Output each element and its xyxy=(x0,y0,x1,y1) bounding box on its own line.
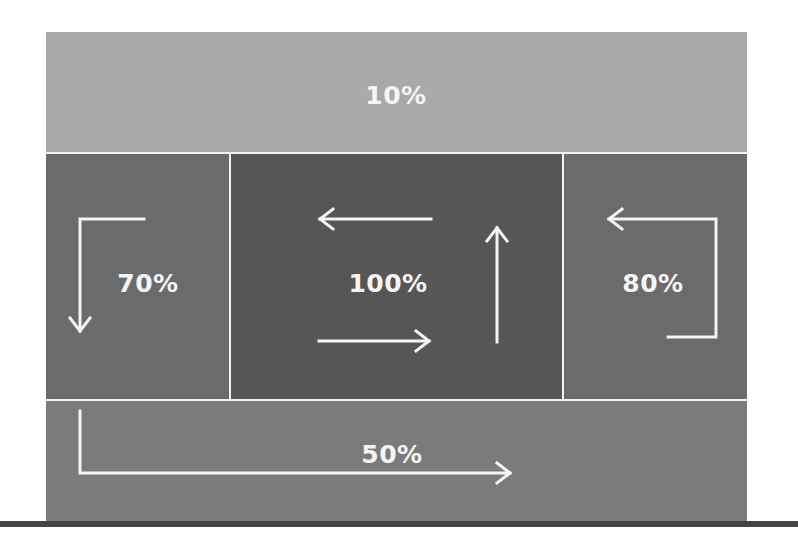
label-top: 10% xyxy=(365,81,426,110)
center-bottom-right-arrow-icon xyxy=(319,331,429,351)
center-up-arrow-icon xyxy=(487,228,507,342)
label-right: 80% xyxy=(622,269,683,298)
center-top-left-arrow-icon xyxy=(320,209,431,229)
bottom-right-arrow-icon xyxy=(80,411,510,483)
label-center: 100% xyxy=(348,269,427,298)
label-bottom: 50% xyxy=(361,440,422,469)
label-left: 70% xyxy=(117,269,178,298)
